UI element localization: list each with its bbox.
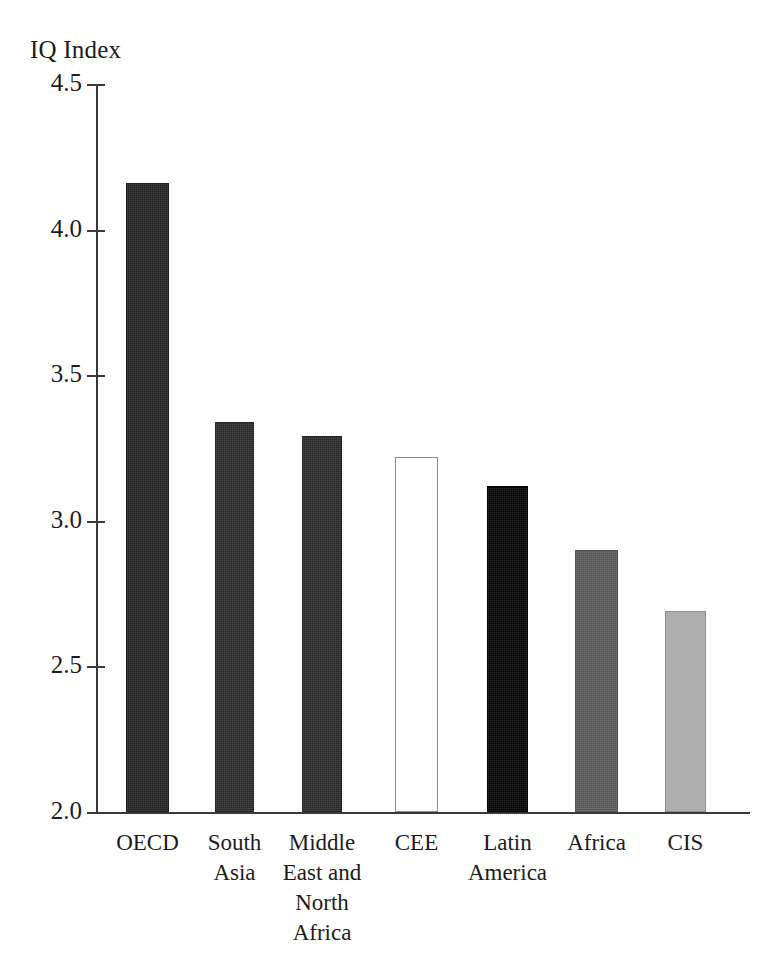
bar-oecd bbox=[126, 183, 169, 812]
x-label-line: Africa bbox=[247, 918, 397, 948]
x-axis-line bbox=[96, 812, 750, 814]
y-tick-label: 4.5 bbox=[51, 69, 82, 97]
x-label-line: East and bbox=[247, 858, 397, 888]
plot-area: 2.02.53.03.54.04.5 bbox=[96, 84, 750, 812]
y-axis-line bbox=[96, 84, 98, 812]
bar-cis bbox=[665, 611, 706, 812]
y-tick-label: 3.5 bbox=[51, 360, 82, 388]
y-tick-label: 2.5 bbox=[51, 651, 82, 679]
y-tick-mark bbox=[87, 666, 105, 668]
y-tick-mark bbox=[87, 84, 105, 86]
y-tick-label: 3.0 bbox=[51, 506, 82, 534]
bar-texture bbox=[576, 551, 617, 811]
chart-figure: IQ Index 2.02.53.03.54.04.5 OECDSouthAsi… bbox=[0, 0, 773, 960]
bar-middle-east-and-north-africa bbox=[302, 436, 342, 812]
y-tick-mark bbox=[87, 230, 105, 232]
bar-texture bbox=[303, 437, 341, 811]
y-tick-mark bbox=[87, 375, 105, 377]
x-label-line: CIS bbox=[611, 828, 761, 858]
bar-africa bbox=[575, 550, 618, 812]
bar-texture bbox=[488, 487, 527, 811]
bar-latin-america bbox=[487, 486, 528, 812]
y-tick-label: 4.0 bbox=[51, 215, 82, 243]
bar-texture bbox=[127, 184, 168, 811]
bar-texture bbox=[666, 612, 705, 811]
x-label-line: North bbox=[247, 888, 397, 918]
x-label-cis: CIS bbox=[611, 828, 761, 858]
bar-texture bbox=[216, 423, 253, 811]
y-tick-mark bbox=[87, 812, 105, 814]
bar-south-asia bbox=[215, 422, 254, 812]
y-tick-label: 2.0 bbox=[51, 797, 82, 825]
chart-title: IQ Index bbox=[30, 36, 121, 64]
x-label-line: America bbox=[433, 858, 583, 888]
bar-cee bbox=[395, 457, 438, 812]
y-tick-mark bbox=[87, 521, 105, 523]
